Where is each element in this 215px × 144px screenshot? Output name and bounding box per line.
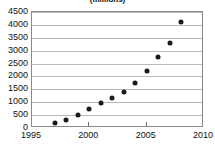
- gridline: [32, 89, 202, 90]
- y-tick-label: 3000: [0, 46, 28, 55]
- y-tick-label: 2500: [0, 59, 28, 68]
- x-tick-label: 2010: [188, 131, 215, 140]
- y-tick-label: 3500: [0, 33, 28, 42]
- data-point: [64, 118, 69, 123]
- gridline: [32, 12, 202, 13]
- y-tick-label: 4500: [0, 7, 28, 16]
- data-point: [156, 54, 161, 59]
- x-tick-label: 2005: [131, 131, 161, 140]
- plot-area: [31, 11, 203, 127]
- x-tick-label: 2000: [73, 131, 103, 140]
- gridline: [32, 115, 202, 116]
- y-tick-label: 4000: [0, 20, 28, 29]
- data-point: [75, 113, 80, 118]
- gridline: [32, 51, 202, 52]
- data-point: [121, 89, 126, 94]
- data-point: [87, 107, 92, 112]
- data-point: [167, 40, 172, 45]
- gridline: [32, 102, 202, 103]
- data-point: [133, 80, 138, 85]
- y-tick-label: 2000: [0, 71, 28, 80]
- x-tick-mark: [146, 122, 147, 127]
- data-point: [98, 100, 103, 105]
- gridline: [32, 64, 202, 65]
- x-tick-mark: [88, 122, 89, 127]
- y-tick-label: 500: [0, 110, 28, 119]
- data-point: [110, 96, 115, 101]
- gridline: [32, 25, 202, 26]
- data-point: [52, 120, 57, 125]
- chart-container: (millions) 05001000150020002500300035004…: [0, 0, 215, 144]
- gridline: [32, 76, 202, 77]
- y-tick-label: 1000: [0, 97, 28, 106]
- data-point: [144, 69, 149, 74]
- y-tick-label: 1500: [0, 84, 28, 93]
- data-point: [179, 20, 184, 25]
- x-tick-label: 1995: [16, 131, 46, 140]
- gridline: [32, 38, 202, 39]
